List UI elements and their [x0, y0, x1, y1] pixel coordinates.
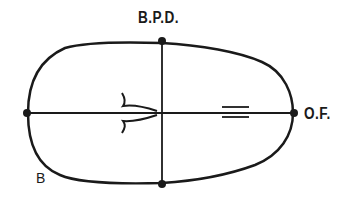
bpd-bottom-point	[158, 180, 166, 188]
thalamus-lower-icon	[122, 115, 157, 133]
of-right-point	[290, 109, 298, 117]
of-left-point	[23, 109, 31, 117]
b-label: B	[36, 171, 45, 185]
of-label: O.F.	[304, 106, 331, 122]
bpd-top-point	[158, 37, 166, 45]
thalamus-upper-icon	[122, 93, 157, 111]
head-diagram	[0, 0, 363, 198]
bpd-label: B.P.D.	[138, 10, 179, 26]
